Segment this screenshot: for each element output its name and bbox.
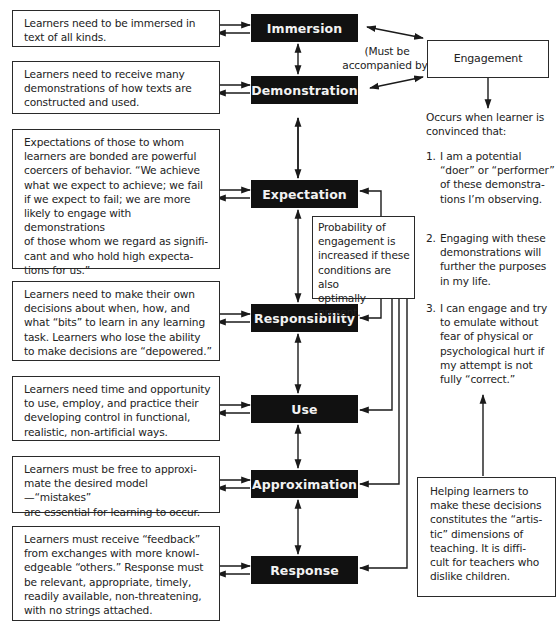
expectation-node: Expectation <box>251 180 358 208</box>
point-number: 3. <box>426 301 436 315</box>
accompanied-label: (Must be accompanied by) <box>332 44 442 72</box>
immersion-description: Learners need to be immersed in text of … <box>12 10 220 47</box>
engagement-occurs-when: Occurs when learner is convinced that: <box>426 110 556 138</box>
engagement-node: Engagement <box>427 40 549 78</box>
use-node: Use <box>251 395 358 423</box>
response-node: Response <box>251 556 358 584</box>
point-text: Engaging with these demonstrations will … <box>440 231 558 288</box>
demonstration-description: Learners need to receive many demonstrat… <box>12 61 220 114</box>
point-text: I am a potential “doer” or “performer” o… <box>440 149 558 206</box>
immersion-node: Immersion <box>251 14 358 42</box>
point-text: I can engage and try to emulate without … <box>440 301 558 386</box>
point-number: 1. <box>426 149 436 163</box>
approximation-description: Learners must be free to approxi- mate t… <box>12 456 220 513</box>
response-description: Learners must receive “feedback” from ex… <box>12 526 220 621</box>
point-number: 2. <box>426 231 436 245</box>
engagement-label: Engagement <box>454 52 523 66</box>
approximation-node: Approximation <box>251 470 358 498</box>
teaching-note: Helping learners to make these decisions… <box>417 477 556 597</box>
use-description: Learners need time and opportunity to us… <box>12 376 220 441</box>
expectation-description: Expectations of those to whom learners a… <box>12 129 220 269</box>
probability-note: Probability of engagement is increased i… <box>312 216 415 299</box>
responsibility-description: Learners need to make their own decision… <box>12 281 220 361</box>
demonstration-node: Demonstration <box>251 76 358 104</box>
